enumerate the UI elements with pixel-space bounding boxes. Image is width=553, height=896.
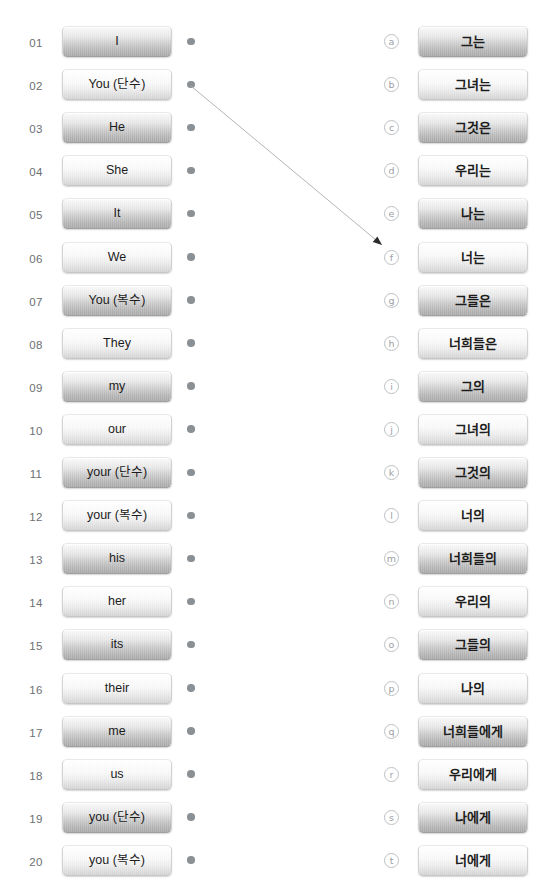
- right-letter-marker[interactable]: g: [384, 293, 399, 308]
- right-term-button[interactable]: 나의: [418, 673, 528, 704]
- right-term-label: 그것은: [455, 120, 490, 135]
- right-term-button[interactable]: 우리는: [418, 155, 528, 186]
- right-letter-marker[interactable]: j: [384, 422, 399, 437]
- right-row: q너희들에게: [0, 716, 553, 750]
- right-term-button[interactable]: 우리의: [418, 586, 528, 617]
- matching-exercise-board: 01I02You (단수)03He04She05It06We07You (복수)…: [0, 0, 553, 896]
- right-term-label: 너희들의: [449, 551, 496, 566]
- right-letter-marker[interactable]: s: [384, 810, 399, 825]
- right-row: o그들의: [0, 629, 553, 663]
- right-term-label: 그들은: [455, 293, 490, 308]
- right-row: e나는: [0, 198, 553, 232]
- left-term-label: its: [111, 637, 124, 651]
- right-row: m너희들의: [0, 543, 553, 577]
- left-term-label: They: [103, 336, 131, 350]
- left-term-label: He: [109, 120, 125, 134]
- right-row: d우리는: [0, 155, 553, 189]
- left-term-label: your (단수): [87, 465, 147, 479]
- right-letter-marker[interactable]: n: [384, 594, 399, 609]
- right-letter-marker[interactable]: d: [384, 163, 399, 178]
- right-term-label: 그것의: [455, 465, 490, 480]
- right-letter-marker[interactable]: r: [384, 767, 399, 782]
- right-row: c그것은: [0, 112, 553, 146]
- right-term-button[interactable]: 나는: [418, 198, 528, 229]
- right-term-label: 너의: [461, 508, 485, 523]
- right-row: f너는: [0, 242, 553, 276]
- right-term-button[interactable]: 너에게: [418, 845, 528, 876]
- right-term-button[interactable]: 그들의: [418, 629, 528, 660]
- right-term-label: 우리에게: [449, 767, 496, 782]
- right-row: g그들은: [0, 285, 553, 319]
- right-letter-marker[interactable]: f: [384, 250, 399, 265]
- left-term-label: You (복수): [89, 293, 146, 307]
- right-term-button[interactable]: 우리에게: [418, 759, 528, 790]
- right-letter-marker[interactable]: q: [384, 724, 399, 739]
- right-row: h너희들은: [0, 328, 553, 362]
- right-term-button[interactable]: 너희들은: [418, 328, 528, 359]
- right-row: r우리에게: [0, 759, 553, 793]
- right-letter-marker[interactable]: l: [384, 508, 399, 523]
- right-term-label: 나는: [461, 206, 485, 221]
- right-term-button[interactable]: 그의: [418, 371, 528, 402]
- right-letter-marker[interactable]: e: [384, 206, 399, 221]
- right-row: l너의: [0, 500, 553, 534]
- right-term-label: 나의: [461, 681, 485, 696]
- right-letter-marker[interactable]: i: [384, 379, 399, 394]
- left-term-label: I: [115, 34, 118, 48]
- right-term-label: 그들의: [455, 637, 490, 652]
- right-term-button[interactable]: 너희들에게: [418, 716, 528, 747]
- right-term-button[interactable]: 나에게: [418, 802, 528, 833]
- right-row: i그의: [0, 371, 553, 405]
- right-row: b그녀는: [0, 69, 553, 103]
- right-term-label: 우리의: [455, 594, 490, 609]
- left-term-label: It: [114, 206, 121, 220]
- left-term-label: her: [108, 594, 126, 608]
- left-term-label: my: [109, 379, 126, 393]
- right-term-label: 그는: [461, 34, 485, 49]
- right-term-label: 나에게: [455, 810, 490, 825]
- right-term-label: 그의: [461, 379, 485, 394]
- left-term-label: your (복수): [87, 508, 147, 522]
- right-letter-marker[interactable]: t: [384, 853, 399, 868]
- left-term-label: you (복수): [89, 853, 145, 867]
- left-term-label: his: [109, 551, 125, 565]
- right-row: n우리의: [0, 586, 553, 620]
- right-term-label: 너는: [461, 250, 485, 265]
- right-term-label: 너희들은: [449, 336, 496, 351]
- right-term-label: 그녀의: [455, 422, 490, 437]
- right-term-button[interactable]: 그녀의: [418, 414, 528, 445]
- right-row: a그는: [0, 26, 553, 60]
- right-row: p나의: [0, 673, 553, 707]
- left-term-label: our: [108, 422, 126, 436]
- left-term-label: She: [106, 163, 128, 177]
- left-term-label: us: [110, 767, 123, 781]
- left-term-label: you (단수): [89, 810, 145, 824]
- right-letter-marker[interactable]: a: [384, 34, 399, 49]
- right-letter-marker[interactable]: k: [384, 465, 399, 480]
- right-letter-marker[interactable]: b: [384, 77, 399, 92]
- right-term-button[interactable]: 그것의: [418, 457, 528, 488]
- right-term-button[interactable]: 그는: [418, 26, 528, 57]
- left-term-label: We: [108, 250, 127, 264]
- left-term-label: me: [108, 724, 125, 738]
- left-term-label: You (단수): [89, 77, 146, 91]
- right-letter-marker[interactable]: m: [384, 551, 399, 566]
- right-row: s나에게: [0, 802, 553, 836]
- left-term-label: their: [105, 681, 129, 695]
- right-row: k그것의: [0, 457, 553, 491]
- right-term-button[interactable]: 그녀는: [418, 69, 528, 100]
- right-term-button[interactable]: 너희들의: [418, 543, 528, 574]
- right-term-button[interactable]: 너의: [418, 500, 528, 531]
- right-letter-marker[interactable]: p: [384, 681, 399, 696]
- right-letter-marker[interactable]: h: [384, 336, 399, 351]
- right-letter-marker[interactable]: c: [384, 120, 399, 135]
- right-term-label: 너희들에게: [443, 724, 502, 739]
- right-term-button[interactable]: 그것은: [418, 112, 528, 143]
- right-term-label: 너에게: [455, 853, 490, 868]
- right-row: t너에게: [0, 845, 553, 879]
- right-row: j그녀의: [0, 414, 553, 448]
- right-term-button[interactable]: 너는: [418, 242, 528, 273]
- right-term-button[interactable]: 그들은: [418, 285, 528, 316]
- right-term-label: 그녀는: [455, 77, 490, 92]
- right-letter-marker[interactable]: o: [384, 637, 399, 652]
